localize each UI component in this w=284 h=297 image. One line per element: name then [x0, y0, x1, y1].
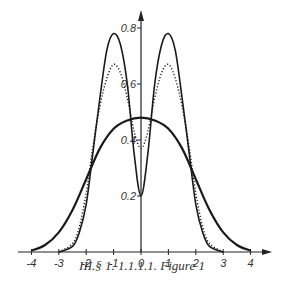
x-axis-arrow-icon	[262, 249, 272, 255]
y-axis-arrow-icon	[138, 10, 144, 21]
y-tick-label: 0.6	[121, 78, 137, 90]
y-tick-label: 0.8	[121, 22, 137, 34]
y-tick-label: 0.2	[121, 190, 136, 202]
chart-plot: -4-3-2-1012340.20.40.60.8	[0, 0, 284, 297]
figure-caption: III.§ 1. 1.1.1.1. Figure 1	[0, 258, 284, 274]
